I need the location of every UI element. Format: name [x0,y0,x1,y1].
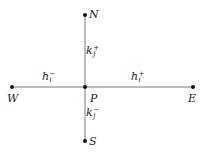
edge-label-base: k [86,106,93,119]
edge-label-sub: j [93,51,99,57]
node-e-dot [191,85,195,89]
stencil-graphic [0,0,208,156]
edge-label-k-minus: k−j [86,107,99,120]
edge-label-k-plus: k+j [86,45,99,58]
node-label-e: E [188,93,196,104]
node-label-p: P [90,93,97,104]
node-n-dot [83,13,87,17]
edge-label-sub: i [50,77,56,83]
node-label-n: N [89,9,99,20]
edge-label-h-minus: h−i [42,71,55,84]
edge-label-base: h [42,70,49,83]
node-label-w: W [7,93,18,104]
node-label-s: S [89,136,97,147]
edge-label-sub: j [93,113,99,119]
node-w-dot [10,85,14,89]
edge-label-base: k [86,44,93,57]
node-s-dot [83,139,87,143]
edge-label-h-plus: h+i [131,71,144,84]
edge-label-sub: i [139,77,145,83]
node-p-dot [83,85,87,89]
edge-label-base: h [131,70,138,83]
